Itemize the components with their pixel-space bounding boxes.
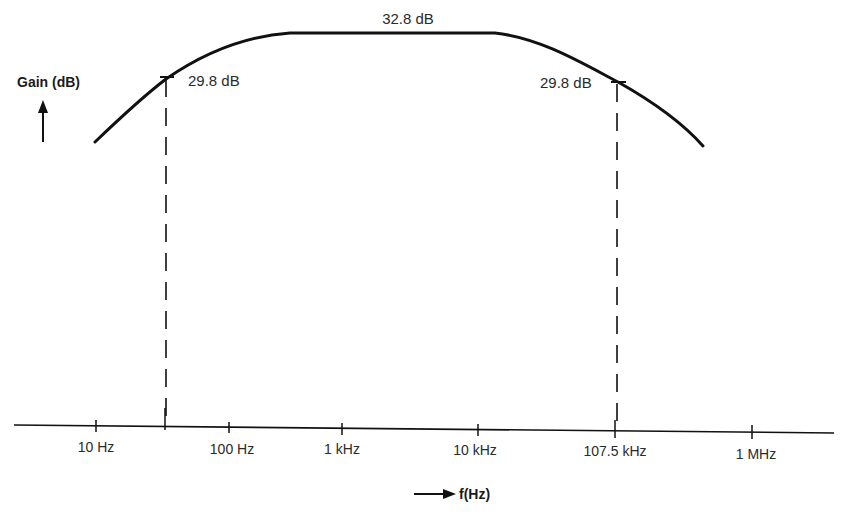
- tick-label-107khz: 107.5 kHz: [583, 443, 646, 459]
- tick-label-10khz: 10 kHz: [453, 442, 497, 458]
- y-axis-label: Gain (dB): [17, 74, 80, 90]
- upper-cutoff-gain-label: 29.8 dB: [540, 74, 592, 91]
- lower-cutoff-gain-label: 29.8 dB: [188, 72, 240, 89]
- x-axis-label: f(Hz): [459, 486, 490, 502]
- x-axis-arrow-icon: [414, 489, 456, 499]
- midband-gain-label: 32.8 dB: [382, 10, 434, 27]
- tick-label-100hz: 100 Hz: [210, 441, 254, 457]
- x-axis-ticks: [96, 408, 752, 439]
- gain-curve: [95, 33, 703, 146]
- x-axis-line: [14, 425, 834, 433]
- gain-frequency-chart: 10 Hz 100 Hz 1 kHz 10 kHz 107.5 kHz 1 MH…: [0, 0, 845, 517]
- y-axis-arrow-icon: [38, 100, 48, 142]
- tick-label-1khz: 1 kHz: [324, 441, 360, 457]
- tick-label-10hz: 10 Hz: [78, 439, 115, 455]
- tick-label-1mhz: 1 MHz: [736, 446, 776, 462]
